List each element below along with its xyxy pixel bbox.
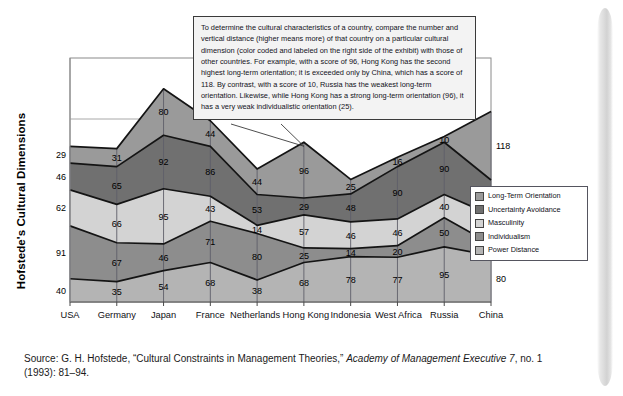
source-journal: Academy of Management Executive 7 [346, 353, 514, 364]
data-value-label: 46 [159, 253, 169, 263]
data-value-label: 31 [112, 153, 122, 163]
data-value-label: 95 [159, 212, 169, 222]
data-value-label: 16 [392, 157, 402, 167]
callout-text: To determine the cultural characteristic… [201, 22, 468, 113]
data-value-label: 35 [112, 287, 122, 297]
data-value-label: 53 [252, 205, 262, 215]
data-value-label: 38 [252, 286, 262, 296]
data-value-label: 96 [299, 166, 309, 176]
x-axis-category-label: France [196, 310, 225, 320]
x-axis-category-label: West Africa [375, 310, 423, 320]
data-value-label: 14 [252, 225, 262, 235]
legend-swatch-icon [475, 192, 484, 201]
data-value-label: 65 [112, 181, 122, 191]
data-value-label: 48 [346, 203, 356, 213]
data-value-label: 54 [159, 282, 169, 292]
legend-item: Uncertainty Avoidance [475, 205, 584, 215]
x-axis-category-label: Netherlands [230, 310, 280, 320]
legend-item-label: Long-Term Orientation [488, 192, 561, 199]
data-value-label: 118 [496, 141, 510, 151]
data-value-label: 90 [439, 164, 449, 174]
data-value-label: 92 [159, 157, 169, 167]
legend-swatch-icon [475, 232, 484, 241]
data-value-label: 67 [112, 258, 122, 268]
data-value-label: 25 [346, 182, 356, 192]
data-value-label: 20 [392, 247, 402, 257]
data-value-label: 43 [205, 204, 215, 214]
x-axis-category-label: China [479, 310, 504, 320]
legend-item-label: Individualism [488, 233, 530, 240]
data-value-label: 40 [439, 202, 449, 212]
legend-item: Individualism [475, 232, 584, 242]
legend-swatch-icon [475, 246, 484, 255]
data-value-label: 68 [299, 278, 309, 288]
data-value-label: 95 [439, 270, 449, 280]
legend-item-label: Power Distance [488, 246, 539, 253]
callout-box: To determine the cultural characteristic… [193, 16, 476, 120]
data-value-label: 46 [56, 172, 66, 182]
data-value-label: 46 [346, 231, 356, 241]
data-value-label: 44 [252, 177, 262, 187]
data-value-label: 66 [112, 219, 122, 229]
data-value-label: 86 [205, 167, 215, 177]
data-value-label: 80 [159, 107, 169, 117]
data-value-label: 46 [392, 228, 402, 238]
data-value-label: 44 [205, 129, 215, 139]
x-axis-category-label: USA [60, 310, 80, 320]
legend-item: Power Distance [475, 245, 584, 255]
data-value-label: 77 [392, 275, 402, 285]
data-value-label: 50 [439, 228, 449, 238]
x-axis-category-label: Hong Kong [283, 310, 330, 320]
data-value-label: 14 [346, 248, 356, 258]
legend-item-label: Uncertainty Avoidance [488, 206, 560, 213]
y-axis-title: Hofstede's Cultural Dimensions [6, 96, 36, 306]
exhibit-page: Hofstede's Cultural Dimensions 403554683… [0, 0, 623, 396]
legend-swatch-icon [475, 219, 484, 228]
y-axis-title-label: Hofstede's Cultural Dimensions [15, 113, 27, 289]
legend-item: Masculinity [475, 218, 584, 228]
data-value-label: 90 [392, 188, 402, 198]
data-value-label: 80 [252, 252, 262, 262]
page-curl-decoration [597, 8, 613, 386]
data-value-label: 62 [56, 203, 66, 213]
data-value-label: 68 [205, 278, 215, 288]
data-value-label: 78 [346, 275, 356, 285]
data-value-label: 80 [496, 274, 506, 284]
x-axis-category-label: Indonesia [331, 310, 372, 320]
x-axis-category-label: Germany [98, 310, 137, 320]
legend-item: Long-Term Orientation [475, 191, 584, 201]
data-value-label: 25 [299, 251, 309, 261]
data-value-label: 10 [439, 135, 449, 145]
legend-item-label: Masculinity [488, 219, 524, 226]
data-value-label: 29 [299, 202, 309, 212]
source-footnote: Source: G. H. Hofstede, “Cultural Constr… [24, 352, 544, 380]
data-value-label: 29 [56, 150, 66, 160]
legend-swatch-icon [475, 205, 484, 214]
x-axis-category-label: Japan [151, 310, 176, 320]
chart-legend: Long-Term OrientationUncertainty Avoidan… [470, 186, 588, 261]
data-value-label: 71 [205, 237, 215, 247]
data-value-label: 91 [56, 248, 66, 258]
data-value-label: 57 [299, 227, 309, 237]
x-axis-category-label: Russia [430, 310, 459, 320]
source-prefix: Source: G. H. Hofstede, “Cultural Constr… [24, 353, 346, 364]
data-value-label: 40 [56, 286, 66, 296]
